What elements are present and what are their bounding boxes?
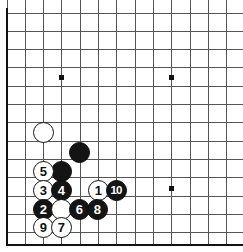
stone-white-7[interactable]: 7 <box>51 217 72 238</box>
stone-move-number: 10 <box>111 184 122 196</box>
stone-move-number: 5 <box>40 164 47 179</box>
stone-black-10[interactable]: 10 <box>106 180 127 201</box>
stone-move-number: 8 <box>94 202 101 217</box>
star-points <box>59 75 174 191</box>
stone-black-blank-upper[interactable] <box>69 142 90 163</box>
stone-move-number: 6 <box>76 202 83 217</box>
star-point-upper-left <box>59 75 64 80</box>
stone-move-number: 1 <box>95 183 102 198</box>
stone-white-5[interactable]: 5 <box>33 161 54 182</box>
star-point-lower-right <box>169 186 174 191</box>
stone-move-number: 7 <box>58 220 65 235</box>
stone-black-4[interactable]: 4 <box>51 180 72 201</box>
go-board-diagram: 53411026897 <box>0 0 243 252</box>
stone-move-number: 2 <box>40 202 47 217</box>
stone-move-number: 9 <box>40 220 47 235</box>
stone-move-number: 3 <box>40 183 47 198</box>
star-point-upper-right <box>169 75 174 80</box>
stone-move-number: 4 <box>58 183 65 198</box>
stone-white-blank-upper[interactable] <box>33 122 54 143</box>
stone-black-blank-mid[interactable] <box>51 161 72 182</box>
stone-black-8[interactable]: 8 <box>87 199 108 220</box>
